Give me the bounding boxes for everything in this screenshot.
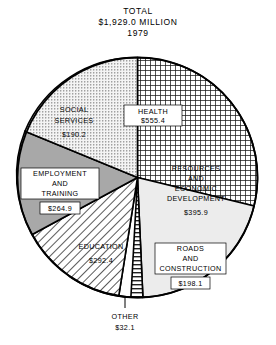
slice-label-education-line-1: EDUCATION	[79, 242, 124, 251]
slice-label-employment-value: $264.9	[48, 204, 72, 213]
slice-label-employment-line-3: TRAINING	[41, 189, 78, 198]
pie-chart-svg: HEALTH $555.4 RESOURCES AND ECONOMIC DEV…	[0, 0, 276, 345]
slice-label-health-value: $555.4	[141, 116, 165, 125]
slice-label-health: HEALTH $555.4	[124, 105, 182, 126]
slice-label-resources-line-4: DEVELOPMENT	[167, 194, 225, 203]
slice-label-resources-value: $395.9	[184, 208, 208, 217]
slice-label-other: OTHER $32.1	[112, 312, 139, 332]
slice-label-education-value: $292.4	[89, 256, 113, 265]
slice-label-other-value: $32.1	[115, 323, 135, 332]
slice-label-employment-line-2: AND	[52, 179, 68, 188]
slice-label-roads-line-2: AND	[182, 254, 198, 263]
slice-label-roads-line-1: ROADS	[177, 244, 204, 253]
slice-label-social-line-2: SERVICES	[54, 116, 93, 125]
slice-label-resources-line-1: RESOURCES	[172, 164, 221, 173]
slice-label-roads-line-3: CONSTRUCTION	[159, 264, 221, 273]
slice-label-health-line-1: HEALTH	[138, 107, 168, 116]
pie-chart-figure: TOTAL $1,929.0 MILLION 1979	[0, 0, 276, 345]
slice-label-roads-value: $198.1	[178, 279, 202, 288]
slice-label-social-value: $190.2	[62, 130, 86, 139]
slice-label-resources-line-2: AND	[188, 174, 204, 183]
slice-label-other-line-1: OTHER	[112, 312, 139, 321]
slice-label-resources-line-3: ECONOMIC	[175, 184, 217, 193]
slice-label-employment-line-1: EMPLOYMENT	[33, 169, 87, 178]
slice-label-social-line-1: SOCIAL	[60, 105, 88, 114]
